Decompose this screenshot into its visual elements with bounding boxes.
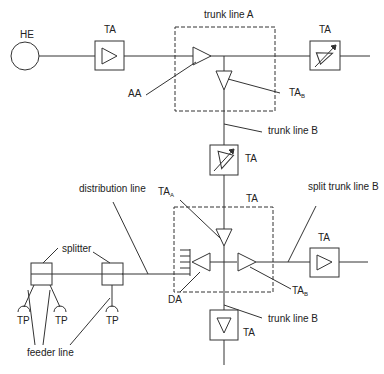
head-end-label: HE bbox=[20, 30, 34, 40]
split-trunk-line-b-label: split trunk line B bbox=[308, 182, 379, 192]
distribution-line-label: distribution line bbox=[79, 184, 146, 194]
ta-a-label: TAA bbox=[158, 187, 174, 198]
tp-label-2: TP bbox=[55, 316, 68, 326]
feeder-line-label: feeder line bbox=[27, 348, 74, 358]
amplifier-tab-top-icon bbox=[216, 71, 232, 90]
splitter-label: splitter bbox=[62, 244, 91, 254]
trunk-line-b-label-1: trunk line B bbox=[268, 126, 318, 136]
tp-label-3: TP bbox=[106, 316, 119, 326]
ta-b-top-label: TAB bbox=[289, 88, 305, 99]
trunk-amp-vertical-label: TA bbox=[245, 154, 257, 164]
ta-b-bottom-label: TAB bbox=[292, 286, 308, 297]
trunk-amp-right-label: TA bbox=[319, 25, 331, 35]
trunk-amplifier-1 bbox=[95, 41, 124, 70]
trunk-amp-1-label: TA bbox=[104, 25, 116, 35]
bridger-box-b-label: TA bbox=[246, 194, 258, 204]
bridger-box-a bbox=[175, 27, 275, 111]
split-trunk-amplifier bbox=[310, 248, 339, 277]
trunk-line-b-label-2: trunk line B bbox=[268, 314, 318, 324]
amplifier-taa-icon bbox=[216, 229, 232, 246]
bottom-amp-label: TA bbox=[243, 328, 255, 338]
trunk-line-a-label: trunk line A bbox=[204, 10, 253, 20]
tp-label-1: TP bbox=[17, 316, 30, 326]
bottom-trunk-amplifier bbox=[210, 310, 238, 340]
da-label: DA bbox=[168, 295, 182, 305]
distribution-amplifier-icon bbox=[192, 253, 210, 271]
head-end-icon bbox=[11, 42, 39, 70]
aa-label: AA bbox=[128, 89, 141, 99]
split-amp-label: TA bbox=[318, 233, 330, 243]
